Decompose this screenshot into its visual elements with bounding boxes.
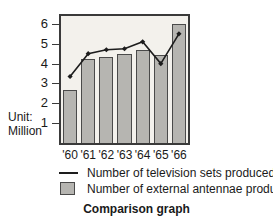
unit-line-1: Unit:: [8, 110, 56, 124]
legend: Number of television sets produced Numbe…: [57, 165, 273, 197]
legend-label: Number of external antennae produced: [87, 182, 273, 196]
figure-caption: Comparison graph: [0, 202, 273, 216]
line-path: [70, 34, 179, 77]
line-marker-62: [104, 47, 109, 52]
line-marker-icon: [57, 165, 83, 181]
television-sets-line-series: [61, 16, 188, 143]
legend-item-television-sets: Number of television sets produced: [57, 165, 273, 181]
y-tick-mark-5: [52, 44, 59, 45]
y-tick-label-3: 3: [41, 76, 48, 89]
y-tick-label-6: 6: [41, 17, 48, 30]
y-axis-unit-label: Unit: Million: [8, 110, 56, 138]
legend-item-external-antennae: Number of external antennae produced: [57, 181, 273, 197]
line-marker-63: [122, 46, 127, 51]
legend-label: Number of television sets produced: [87, 166, 273, 180]
plot-area: [59, 14, 190, 145]
y-tick-mark-6: [52, 24, 59, 25]
comparison-graph-figure: 123456 Unit: Million Number of televisio…: [0, 0, 273, 224]
y-tick-mark-3: [52, 83, 59, 84]
y-tick-label-5: 5: [41, 37, 48, 50]
bar-swatch-icon: [57, 181, 83, 197]
y-tick-mark-4: [52, 64, 59, 65]
y-tick-label-2: 2: [41, 96, 48, 109]
x-tick-label-66: '66: [165, 149, 193, 161]
plot-content: [61, 16, 188, 143]
y-tick-label-4: 4: [41, 57, 48, 70]
y-tick-mark-2: [52, 103, 59, 104]
unit-line-2: Million: [8, 124, 56, 138]
